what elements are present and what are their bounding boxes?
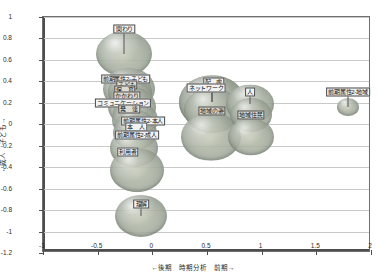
y-tick (39, 146, 44, 147)
y-tick-label: -0.6 (1, 184, 12, 191)
x-tick-label: -0.5 (91, 242, 102, 249)
y-tick (39, 103, 44, 104)
x-tick (371, 250, 372, 255)
gridline (43, 189, 369, 190)
point-label: ネットワーク (187, 84, 226, 93)
bubble-chart: 関わり前期属性2-子ども子ども保 育かかわりコミュニケーション発 達前期属性2-… (0, 0, 386, 280)
plot-area: 関わり前期属性2-子ども子ども保 育かかわりコミュニケーション発 達前期属性2-… (42, 16, 370, 252)
y-tick (39, 189, 44, 190)
point-label: 地域の姿 (198, 106, 225, 115)
point-label: 地域住民 (237, 111, 264, 120)
point-label: 前期属性2-地域 (326, 88, 370, 97)
x-tick (152, 250, 153, 255)
y-tick-label: 0 (8, 120, 12, 127)
y-tick (39, 124, 44, 125)
y-tick (39, 60, 44, 61)
y-tick-label: 1 (8, 13, 12, 20)
y-tick-label: -1.2 (1, 249, 12, 256)
point-label: 利用者 (117, 147, 138, 156)
x-tick (207, 250, 208, 255)
y-tick (39, 38, 44, 39)
x-tick (98, 250, 99, 255)
gridline (43, 232, 369, 233)
gridline (43, 60, 369, 61)
y-tick (39, 210, 44, 211)
y-tick (39, 17, 44, 18)
y-tick (39, 167, 44, 168)
gridline (43, 38, 369, 39)
point-label: 前期属性2-成人 (115, 130, 159, 139)
y-tick-label: -0.8 (1, 206, 12, 213)
point-label: 人 (245, 87, 255, 96)
x-tick (262, 250, 263, 255)
gridline (43, 17, 369, 18)
x-tick-label: 1.5 (311, 242, 320, 249)
y-tick-label: -1 (6, 227, 12, 234)
y-tick-label: 0.4 (3, 77, 12, 84)
x-axis-title: ←後期 時期分析 前期→ (0, 262, 386, 272)
x-tick-label: 2 (368, 242, 372, 249)
y-tick (39, 232, 44, 233)
x-tick (43, 250, 44, 255)
y-tick-label: 0.2 (3, 98, 12, 105)
gridline (43, 210, 369, 211)
gridline (43, 167, 369, 168)
bubble-marker (228, 119, 274, 156)
point-label: 発 達 (118, 105, 139, 114)
x-axis-line (43, 249, 369, 251)
y-axis-line (43, 17, 45, 251)
point-label: 理解 (134, 199, 150, 208)
x-tick-label: -1 (39, 242, 45, 249)
y-tick-label: 0.6 (3, 55, 12, 62)
y-tick-label: 0.8 (3, 34, 12, 41)
x-tick-label: 0.5 (201, 242, 210, 249)
y-tick (39, 81, 44, 82)
x-tick (316, 250, 317, 255)
point-label: 関わり (114, 25, 135, 34)
x-tick-label: 0 (150, 242, 154, 249)
y-axis-title: ←成人 子ども→ (0, 118, 7, 173)
x-tick-label: 1 (259, 242, 263, 249)
